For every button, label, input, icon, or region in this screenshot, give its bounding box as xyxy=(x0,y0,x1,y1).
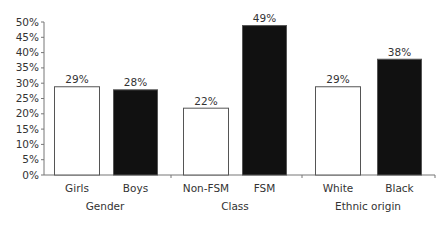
y-tick-label: 10% xyxy=(16,138,39,150)
category-label: FSM xyxy=(254,182,276,194)
category-label: Black xyxy=(385,182,414,194)
y-tick-label: 25% xyxy=(16,92,39,104)
y-tick-label: 35% xyxy=(16,61,39,73)
category-label: White xyxy=(323,182,354,194)
bar-black xyxy=(378,59,422,175)
bar-girls xyxy=(55,87,100,175)
y-tick-label: 40% xyxy=(16,46,39,58)
value-label: 49% xyxy=(253,12,276,24)
x-axis xyxy=(44,175,435,178)
bar-fsm xyxy=(243,26,287,175)
category-label: Non-FSM xyxy=(183,182,229,194)
bars xyxy=(55,26,422,175)
value-label: 28% xyxy=(124,76,147,88)
y-tick-label: 45% xyxy=(16,31,39,43)
value-label: 38% xyxy=(388,46,411,58)
bar-white xyxy=(316,87,361,175)
bar-boys xyxy=(114,90,158,175)
value-label: 29% xyxy=(326,73,349,85)
y-tick-label: 15% xyxy=(16,123,39,135)
y-tick-label: 0% xyxy=(22,169,39,181)
group-label: Ethnic origin xyxy=(335,200,401,212)
y-tick-label: 5% xyxy=(22,153,39,165)
group-label: Gender xyxy=(86,200,125,212)
y-tick-label: 30% xyxy=(16,77,39,89)
bar-chart: 0%5%10%15%20%25%30%35%40%45%50% 29%Girls… xyxy=(0,0,448,227)
group-label: Class xyxy=(221,200,249,212)
y-tick-label: 50% xyxy=(16,16,39,28)
value-label: 22% xyxy=(194,95,217,107)
y-axis: 0%5%10%15%20%25%30%35%40%45%50% xyxy=(16,16,44,181)
value-label: 29% xyxy=(65,73,88,85)
category-label: Boys xyxy=(123,182,148,194)
bar-non-fsm xyxy=(184,108,229,175)
category-label: Girls xyxy=(65,182,89,194)
y-tick-label: 20% xyxy=(16,107,39,119)
